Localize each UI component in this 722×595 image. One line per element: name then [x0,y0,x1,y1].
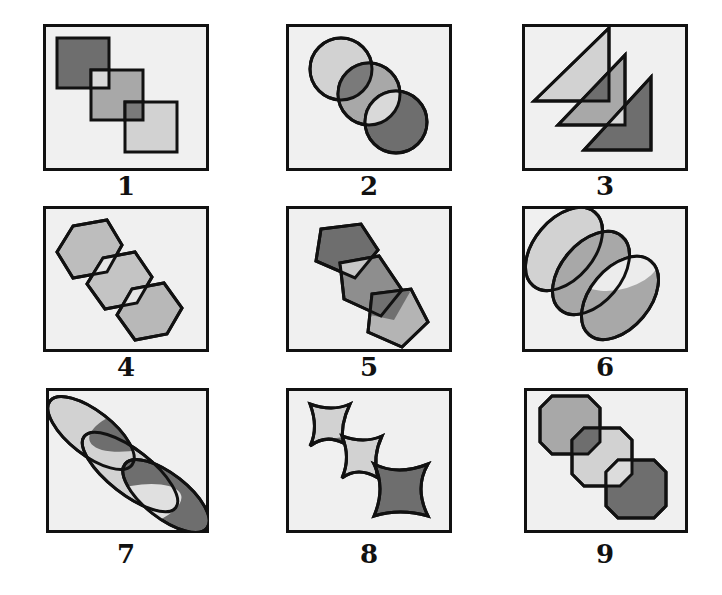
squares-diagram [43,24,209,171]
panel-2-circles [286,24,452,171]
panel-6-ellipses [522,206,688,352]
panel-label-1: 1 [106,172,146,200]
panel-8-stars [286,388,452,533]
panel-7-elongated-ellipses [46,388,209,533]
panel-1-squares [43,24,209,171]
panel-label-6: 6 [585,353,625,381]
panel-label-5: 5 [349,353,389,381]
panel-label-3: 3 [585,172,625,200]
triangles-diagram [522,24,688,171]
panel-label-7: 7 [106,540,146,568]
panel-9-octagons [524,388,688,533]
panel-label-4: 4 [106,353,146,381]
hexagons-diagram [43,206,209,352]
panel-label-8: 8 [349,540,389,568]
panel-label-2: 2 [349,172,389,200]
panel-label-9: 9 [585,540,625,568]
ellipses-diagram [522,206,688,352]
overlap-light [91,70,109,88]
circles-diagram [286,24,452,171]
elongated-ellipses-diagram [46,388,209,533]
pentagons-diagram [286,206,452,352]
panel-3-triangles [522,24,688,171]
panel-5-pentagons [286,206,452,352]
octagons-diagram [524,388,688,533]
overlap-dark [125,102,143,120]
stars-diagram [286,388,452,533]
panel-4-hexagons [43,206,209,352]
